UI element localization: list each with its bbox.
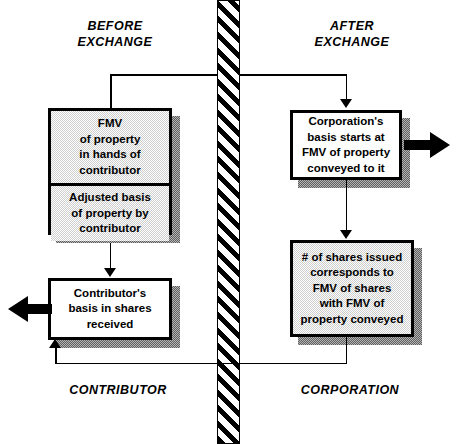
box-corporation-basis-label: Corporation's basis starts at FMV of pro…: [302, 114, 390, 176]
diagram-canvas: BEFORE EXCHANGE AFTER EXCHANGE FMV of pr…: [0, 0, 462, 444]
connector-shares-riser: [55, 348, 57, 363]
arrowhead-into-contributor-basis: [104, 268, 116, 277]
connector-shares-drop: [346, 337, 348, 364]
footer-contributor: CONTRIBUTOR: [48, 382, 188, 398]
box-adjusted-basis: Adjusted basis of property by contributo…: [51, 183, 169, 241]
header-after-exchange: AFTER EXCHANGE: [292, 18, 412, 50]
arrowhead-into-corporation-basis: [340, 99, 352, 108]
arrow-corporation-basis-out: [404, 132, 454, 158]
box-contributor-basis-shares-label: Contributor's basis in shares received: [68, 286, 151, 333]
connector-corporation-drop: [346, 74, 348, 100]
arrowhead-into-shares-issued: [340, 230, 352, 239]
box-shares-issued-label: # of shares issued corresponds to FMV of…: [301, 250, 404, 328]
connector-corporation-to-shares: [346, 180, 348, 232]
connector-fmv-riser: [110, 74, 112, 109]
connector-shares-crossbar: [55, 363, 347, 365]
footer-corporation: CORPORATION: [280, 382, 420, 398]
box-contributor-basis-shares: Contributor's basis in shares received: [48, 278, 172, 340]
header-before-exchange: BEFORE EXCHANGE: [55, 18, 175, 50]
vertical-hatched-divider: [217, 0, 240, 444]
box-corporation-basis: Corporation's basis starts at FMV of pro…: [290, 110, 402, 180]
arrow-contributor-basis-out: [8, 296, 52, 322]
arrowhead-back-into-contributor-basis: [49, 339, 61, 348]
box-shares-issued: # of shares issued corresponds to FMV of…: [290, 240, 414, 337]
box-fmv-property: FMV of property in hands of contributor: [51, 111, 169, 183]
stacked-boxes-contributor: FMV of property in hands of contributor …: [48, 108, 172, 235]
